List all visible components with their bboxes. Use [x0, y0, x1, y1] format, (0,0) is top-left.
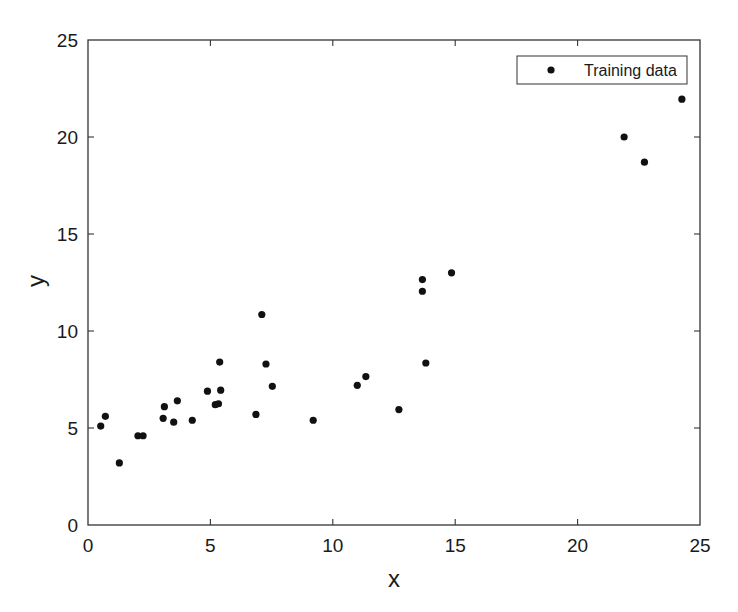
data-point	[217, 387, 224, 394]
x-tick-label: 20	[567, 535, 588, 556]
data-point	[204, 388, 211, 395]
data-point	[354, 382, 361, 389]
x-tick-label: 5	[205, 535, 216, 556]
data-point	[97, 422, 104, 429]
legend-marker-dot-icon	[547, 66, 554, 73]
x-tick-label: 10	[322, 535, 343, 556]
data-point	[395, 406, 402, 413]
data-point	[116, 459, 123, 466]
data-point	[310, 417, 317, 424]
data-point	[139, 432, 146, 439]
data-point	[252, 411, 259, 418]
training-data-series	[97, 96, 685, 467]
data-point	[422, 359, 429, 366]
data-point	[448, 269, 455, 276]
x-tick-label: 15	[445, 535, 466, 556]
data-point	[258, 311, 265, 318]
legend-label: Training data	[584, 62, 677, 79]
y-tick-label: 0	[67, 515, 78, 536]
scatter-chart: 0510152025 0510152025 x y Training data	[0, 0, 738, 612]
data-point	[678, 96, 685, 103]
plot-area-frame	[88, 40, 700, 525]
y-tick-label: 10	[57, 321, 78, 342]
x-axis-label: x	[388, 565, 400, 592]
axis-ticks	[88, 40, 700, 525]
y-axis-label: y	[22, 275, 49, 287]
data-point	[189, 417, 196, 424]
data-point	[160, 415, 167, 422]
data-point	[215, 400, 222, 407]
y-tick-label: 25	[57, 30, 78, 51]
data-point	[161, 403, 168, 410]
data-point	[621, 133, 628, 140]
data-point	[102, 413, 109, 420]
data-point	[170, 419, 177, 426]
y-axis-tick-labels: 0510152025	[57, 30, 78, 536]
data-point	[641, 159, 648, 166]
y-tick-label: 20	[57, 127, 78, 148]
data-point	[419, 288, 426, 295]
y-tick-label: 15	[57, 224, 78, 245]
x-axis-tick-labels: 0510152025	[83, 535, 711, 556]
x-tick-label: 0	[83, 535, 94, 556]
data-point	[262, 360, 269, 367]
data-point	[362, 373, 369, 380]
x-tick-label: 25	[689, 535, 710, 556]
y-tick-label: 5	[67, 418, 78, 439]
data-point	[419, 276, 426, 283]
data-point	[174, 397, 181, 404]
data-point	[216, 358, 223, 365]
legend: Training data	[517, 56, 687, 84]
data-point	[269, 383, 276, 390]
